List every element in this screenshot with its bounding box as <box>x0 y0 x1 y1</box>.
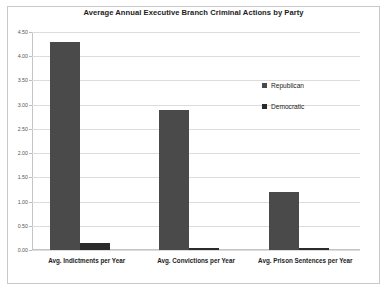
legend-label-republican: Republican <box>271 82 304 89</box>
chart-legend: Republican Democratic <box>262 82 362 124</box>
bar-group: Avg. Prison Sentences per Year <box>251 32 360 250</box>
y-tick-label: 2.00 <box>18 150 28 156</box>
chart-figure: Average Annual Executive Branch Criminal… <box>0 0 387 292</box>
x-axis-category-label: Avg. Indictments per Year <box>32 256 141 265</box>
y-tick-label: 1.00 <box>18 199 28 205</box>
legend-swatch-icon-republican <box>262 83 267 88</box>
bar-democratic[interactable] <box>299 248 329 250</box>
x-axis-category-label: Avg. Convictions per Year <box>141 256 250 265</box>
y-tick-label: 0.50 <box>18 223 28 229</box>
y-tick-label: 3.50 <box>18 77 28 83</box>
y-tick-mark <box>29 250 32 251</box>
y-tick-label: 4.50 <box>18 29 28 35</box>
y-tick-label: 1.50 <box>18 174 28 180</box>
bar-democratic[interactable] <box>80 243 110 250</box>
legend-item-republican[interactable]: Republican <box>262 82 362 89</box>
plot-area: 0.000.501.001.502.002.503.003.504.004.50… <box>32 32 360 250</box>
y-tick-label: 2.50 <box>18 126 28 132</box>
y-tick-label: 4.00 <box>18 53 28 59</box>
bar-group: Avg. Indictments per Year <box>32 32 141 250</box>
y-tick-label: 0.00 <box>18 247 28 253</box>
gridline <box>32 250 360 251</box>
bar-group: Avg. Convictions per Year <box>141 32 250 250</box>
bar-democratic[interactable] <box>189 248 219 250</box>
bar-republican[interactable] <box>50 42 80 250</box>
legend-label-democratic: Democratic <box>271 103 304 110</box>
legend-swatch-icon-democratic <box>262 104 267 109</box>
bar-republican[interactable] <box>159 110 189 250</box>
chart-title: Average Annual Executive Branch Criminal… <box>0 8 387 17</box>
y-tick-label: 3.00 <box>18 102 28 108</box>
x-axis-category-label: Avg. Prison Sentences per Year <box>251 256 360 265</box>
bar-republican[interactable] <box>269 192 299 250</box>
legend-item-democratic[interactable]: Democratic <box>262 103 362 110</box>
